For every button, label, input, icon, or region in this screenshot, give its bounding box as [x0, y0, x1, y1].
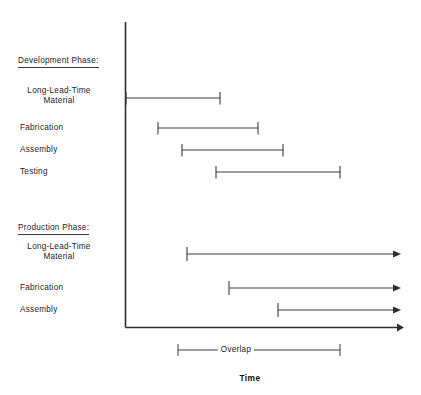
time-axis-arrowhead [397, 324, 404, 332]
bar-arrowhead [393, 251, 401, 258]
development-phase-heading: Development Phase: [18, 56, 99, 68]
prod-bar-fabrication [229, 281, 401, 295]
prod-task-label-fabrication: Fabrication [20, 283, 63, 293]
prod-bar-long-lead-time-material [187, 247, 401, 261]
dev-bar-fabrication [158, 122, 258, 135]
schedule-chart-canvas: Development Phase: Long-Lead-Time Materi… [0, 0, 421, 395]
dev-task-label-fabrication: Fabrication [20, 123, 63, 133]
dev-bar-assembly [182, 144, 283, 157]
prod-bar-assembly [278, 303, 401, 317]
task-label-line-1: Long-Lead-Time [20, 86, 98, 96]
bar-arrowhead [393, 285, 401, 292]
dev-task-label-assembly: Assembly [20, 145, 58, 155]
dev-task-label-long-lead-time-material: Long-Lead-Time Material [20, 86, 98, 106]
task-label-line-2: Material [20, 252, 98, 262]
overlap-annotation-bar [178, 344, 340, 356]
task-label-line-2: Material [20, 96, 98, 106]
overlap-label: Overlap [218, 345, 254, 354]
bar-arrowhead [393, 307, 401, 314]
dev-task-label-testing: Testing [20, 167, 48, 177]
production-phase-heading: Production Phase: [18, 223, 89, 235]
prod-task-label-assembly: Assembly [20, 305, 58, 315]
prod-task-label-long-lead-time-material: Long-Lead-Time Material [20, 242, 98, 262]
dev-bar-long-lead-time-material [126, 92, 220, 105]
dev-bar-testing [216, 166, 340, 179]
task-label-line-1: Long-Lead-Time [20, 242, 98, 252]
time-axis-label: Time [240, 373, 261, 383]
